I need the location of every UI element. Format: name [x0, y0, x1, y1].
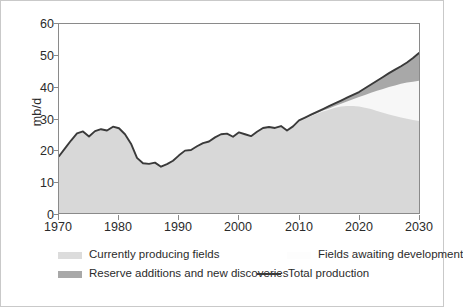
legend-item-reserve-additions: Reserve additions and new discoveries [58, 266, 288, 282]
x-tick-label-2010: 2010 [277, 221, 321, 234]
x-tick-label-2030: 2030 [397, 221, 441, 234]
x-tick-label-1990: 1990 [156, 221, 200, 234]
legend-swatch-fields-awaiting-development [287, 252, 311, 259]
y-tick-label-40: 40 [24, 82, 54, 95]
y-axis-ticks: 60 50 40 30 20 10 0 [21, 23, 54, 214]
legend-swatch-reserve-additions [58, 271, 82, 278]
legend-item-total-production: Total production [257, 266, 369, 282]
legend-item-currently-producing-fields: Currently producing fields [58, 247, 219, 263]
x-tick-label-2020: 2020 [337, 221, 381, 234]
legend-label-total-production: Total production [288, 268, 369, 280]
x-tick-label-2000: 2000 [216, 221, 260, 234]
chart-svg [59, 24, 419, 213]
y-tick-label-30: 30 [24, 114, 54, 127]
legend-swatch-total-production [257, 273, 281, 275]
area-currently-producing-fields [59, 106, 419, 213]
legend-swatch-currently-producing-fields [58, 252, 82, 259]
legend-label-currently-producing-fields: Currently producing fields [89, 249, 219, 261]
plot-area [58, 23, 420, 214]
x-tick-label-1970: 1970 [36, 221, 80, 234]
y-tick-label-10: 10 [24, 177, 54, 190]
x-tick-label-1980: 1980 [96, 221, 140, 234]
y-tick-label-20: 20 [24, 145, 54, 158]
legend-item-fields-awaiting-development: Fields awaiting development [287, 247, 463, 263]
y-tick-label-60: 60 [24, 18, 54, 31]
legend-label-fields-awaiting-development: Fields awaiting development [318, 249, 463, 261]
y-tick-label-50: 50 [24, 50, 54, 63]
x-axis-ticks: 1970 1980 1990 2000 2010 2020 2030 [58, 215, 420, 237]
chart-legend: Currently producing fields Reserve addit… [58, 247, 428, 291]
